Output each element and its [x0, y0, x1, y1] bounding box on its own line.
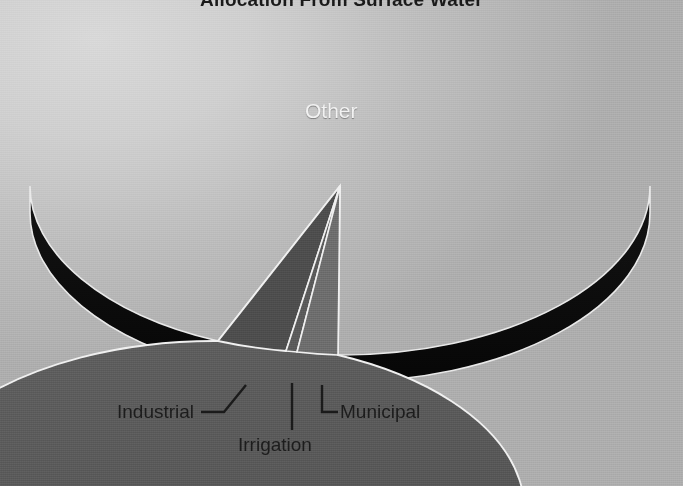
pie-label-other: Other [305, 99, 358, 123]
chart-page: Allocation From Surface Water [0, 0, 683, 486]
callout-label-irrigation: Irrigation [238, 434, 312, 456]
callout-label-industrial: Industrial [117, 401, 194, 423]
callout-label-municipal: Municipal [340, 401, 420, 423]
